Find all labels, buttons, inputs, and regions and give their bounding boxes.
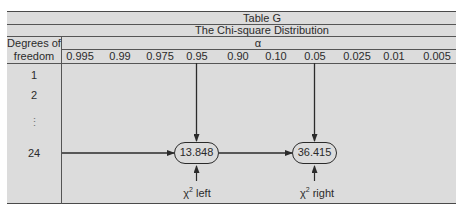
critical-value-right: 36.415 — [292, 142, 337, 164]
critical-value-left: 13.848 — [174, 142, 219, 164]
label-text: left — [193, 187, 211, 199]
label-text: right — [310, 187, 334, 199]
chi-square-right-label: χ2 right — [300, 184, 334, 199]
arrow-overlay — [0, 0, 464, 213]
chi-square-left-label: χ2 left — [183, 184, 210, 199]
